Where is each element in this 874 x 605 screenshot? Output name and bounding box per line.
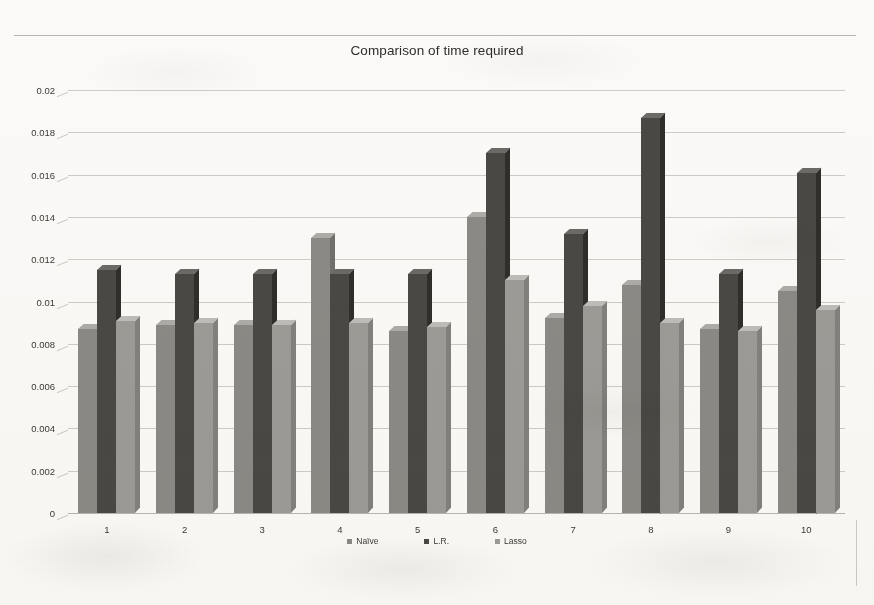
bar-face: [194, 323, 213, 513]
bar-lasso[interactable]: [816, 310, 835, 513]
bar-face: [272, 325, 291, 513]
bar-side-face: [757, 326, 762, 513]
bar-lasso[interactable]: [505, 280, 524, 513]
y-axis-tick-mark: [57, 169, 68, 181]
bar-l-r[interactable]: [564, 234, 583, 513]
bar-side-face: [524, 275, 529, 513]
bar-groups: 12345678910: [68, 90, 845, 513]
bar-face: [408, 274, 427, 513]
bar-face: [738, 331, 757, 513]
legend-item[interactable]: Lasso: [495, 536, 527, 546]
legend-label: Naïve: [356, 536, 378, 546]
bar-lasso[interactable]: [116, 321, 135, 513]
y-axis-tick-mark: [57, 127, 68, 139]
bar-l-r[interactable]: [641, 118, 660, 514]
bar-na-ve[interactable]: [622, 285, 641, 513]
bar-face: [116, 321, 135, 513]
bar-group-bars: [146, 90, 224, 513]
bar-l-r[interactable]: [719, 274, 738, 513]
bar-na-ve[interactable]: [700, 329, 719, 513]
bar-l-r[interactable]: [253, 274, 272, 513]
bar-l-r[interactable]: [175, 274, 194, 513]
bar-group-bars: [767, 90, 845, 513]
bar-face: [311, 238, 330, 513]
y-axis-tick-label: 0.02: [37, 85, 56, 96]
bar-face: [97, 270, 116, 513]
bar-side-face: [368, 317, 373, 513]
bar-side-face: [602, 300, 607, 513]
bar-na-ve[interactable]: [234, 325, 253, 513]
chart-legend: NaïveL.R.Lasso: [0, 536, 874, 546]
bar-lasso[interactable]: [349, 323, 368, 513]
y-axis-tick-mark: [57, 339, 68, 351]
x-axis-tick-label: 6: [457, 524, 535, 535]
legend-swatch-icon: [347, 539, 352, 544]
bar-group: 5: [379, 90, 457, 513]
legend-label: L.R.: [433, 536, 449, 546]
bar-na-ve[interactable]: [545, 318, 564, 513]
bar-group: 2: [146, 90, 224, 513]
bar-l-r[interactable]: [408, 274, 427, 513]
x-axis-tick-label: 9: [690, 524, 768, 535]
y-axis-tick-mark: [57, 508, 68, 520]
bar-face: [583, 306, 602, 513]
bar-group: 4: [301, 90, 379, 513]
bar-face: [797, 173, 816, 514]
bar-side-face: [446, 321, 451, 513]
bar-face: [349, 323, 368, 513]
bar-face: [778, 291, 797, 513]
bar-lasso[interactable]: [194, 323, 213, 513]
bar-lasso[interactable]: [583, 306, 602, 513]
legend-item[interactable]: Naïve: [347, 536, 378, 546]
bar-na-ve[interactable]: [389, 331, 408, 513]
bar-face: [622, 285, 641, 513]
chart-title: Comparison of time required: [0, 43, 874, 58]
y-axis-tick-label: 0.012: [31, 254, 55, 265]
bar-group: 3: [223, 90, 301, 513]
bar-face: [234, 325, 253, 513]
bar-na-ve[interactable]: [467, 217, 486, 513]
gridline: [68, 513, 845, 514]
bar-face: [389, 331, 408, 513]
bar-na-ve[interactable]: [311, 238, 330, 513]
bar-l-r[interactable]: [97, 270, 116, 513]
bar-face: [467, 217, 486, 513]
y-axis-tick-label: 0.018: [31, 127, 55, 138]
x-axis-tick-label: 7: [534, 524, 612, 535]
bar-lasso[interactable]: [738, 331, 757, 513]
legend-item[interactable]: L.R.: [424, 536, 449, 546]
bar-l-r[interactable]: [486, 153, 505, 513]
x-axis-tick-label: 2: [146, 524, 224, 535]
bar-face: [253, 274, 272, 513]
bar-group: 8: [612, 90, 690, 513]
bar-na-ve[interactable]: [778, 291, 797, 513]
bar-na-ve[interactable]: [78, 329, 97, 513]
bar-l-r[interactable]: [797, 173, 816, 514]
y-axis-tick-mark: [57, 254, 68, 266]
y-axis-tick-mark: [57, 465, 68, 477]
plot-area: 00.0020.0040.0060.0080.010.0120.0140.016…: [68, 90, 845, 513]
bar-lasso[interactable]: [660, 323, 679, 513]
x-axis-tick-label: 8: [612, 524, 690, 535]
bar-group-bars: [379, 90, 457, 513]
bar-face: [175, 274, 194, 513]
y-axis-tick-label: 0.006: [31, 381, 55, 392]
y-axis-tick-label: 0.008: [31, 338, 55, 349]
bar-lasso[interactable]: [272, 325, 291, 513]
bar-side-face: [213, 317, 218, 513]
bar-face: [641, 118, 660, 514]
bar-lasso[interactable]: [427, 327, 446, 513]
bar-group: 6: [457, 90, 535, 513]
bar-l-r[interactable]: [330, 274, 349, 513]
legend-swatch-icon: [424, 539, 429, 544]
bar-face: [330, 274, 349, 513]
bar-face: [486, 153, 505, 513]
bar-side-face: [135, 315, 140, 513]
bar-group-bars: [223, 90, 301, 513]
x-axis-tick-label: 5: [379, 524, 457, 535]
bar-na-ve[interactable]: [156, 325, 175, 513]
bar-face: [545, 318, 564, 513]
y-axis-tick-mark: [57, 381, 68, 393]
bar-group: 1: [68, 90, 146, 513]
bar-face: [700, 329, 719, 513]
